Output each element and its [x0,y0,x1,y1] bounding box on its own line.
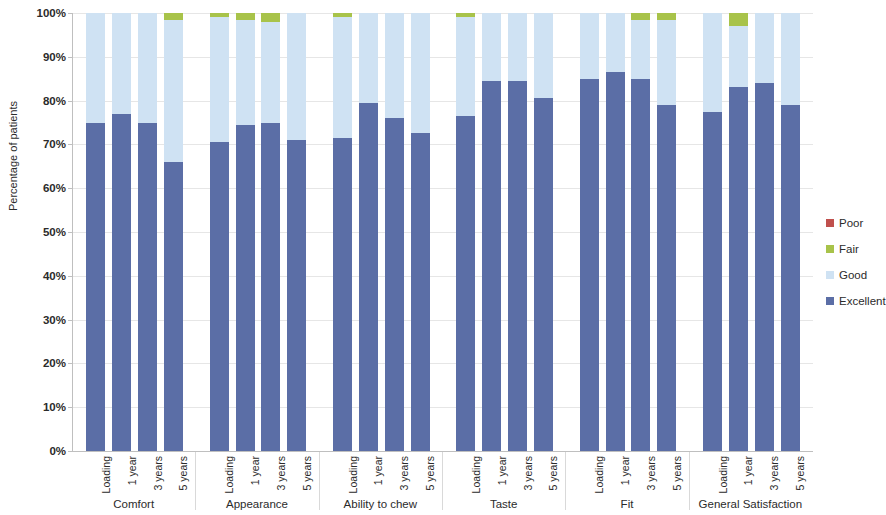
bar-slot [210,13,229,451]
y-axis-tick-mark [68,451,73,452]
legend-item[interactable]: Excellent [826,288,886,314]
y-axis-tick-label: 10% [43,401,66,413]
y-axis-tick-label: 50% [43,226,66,238]
legend-item[interactable]: Good [826,262,886,288]
x-axis-sub-label: Loading [470,456,482,493]
bar-slot [755,13,774,451]
bar-slot [703,13,722,451]
bar-segment-excellent [164,162,183,451]
x-axis-group-label: Fit [621,498,634,510]
bar-slot [287,13,306,451]
stacked-bar[interactable] [781,13,800,451]
x-axis-group-separator [565,452,566,510]
stacked-bar[interactable] [138,13,157,451]
stacked-bar[interactable] [657,13,676,451]
x-axis-sub-label: 3 years [522,456,534,490]
bar-slot [411,13,430,451]
legend-item[interactable]: Poor [826,210,886,236]
y-axis-tick-label: 100% [37,7,66,19]
stacked-bar[interactable] [164,13,183,451]
bar-segment-excellent [86,123,105,452]
bar-segment-excellent [287,140,306,451]
bar-slot [456,13,475,451]
stacked-bar[interactable] [580,13,599,451]
x-axis-sub-label: Loading [593,456,605,493]
bar-segment-good [138,13,157,123]
bar-segment-fair [261,13,280,22]
bar-segment-excellent [333,138,352,451]
bar-segment-good [631,20,650,79]
bar-segment-excellent [385,118,404,451]
bar-slot [606,13,625,451]
bar-segment-excellent [534,98,553,451]
x-axis-sub-label: 1 year [496,456,508,485]
x-axis-sub-label: 1 year [619,456,631,485]
stacked-bar[interactable] [755,13,774,451]
x-axis-group-separator [195,452,196,510]
bar-segment-good [703,13,722,112]
bar-slot [359,13,378,451]
stacked-bar[interactable] [385,13,404,451]
x-axis-sub-label: 1 year [126,456,138,485]
bar-segment-excellent [755,83,774,451]
x-axis-sub-label: 5 years [177,456,189,490]
stacked-bar[interactable] [456,13,475,451]
stacked-bar[interactable] [729,13,748,451]
legend-swatch-icon [826,297,834,305]
stacked-bar[interactable] [508,13,527,451]
legend-swatch-icon [826,271,834,279]
bar-slot [580,13,599,451]
bar-group [320,13,443,451]
bar-segment-good [261,22,280,123]
stacked-bar[interactable] [534,13,553,451]
legend-item[interactable]: Fair [826,236,886,262]
bar-segment-fair [729,13,748,26]
stacked-bar[interactable] [112,13,131,451]
bar-group [443,13,566,451]
bar-segment-good [508,13,527,81]
bar-segment-good [164,20,183,162]
stacked-bar[interactable] [333,13,352,451]
x-axis-sub-label: 5 years [301,456,313,490]
bar-segment-good [781,13,800,105]
y-axis-tick-label: 40% [43,270,66,282]
bar-segment-good [456,17,475,116]
bar-segment-excellent [631,79,650,451]
stacked-bar[interactable] [86,13,105,451]
plot-area: 0%10%20%30%40%50%60%70%80%90%100% [72,13,813,452]
x-axis-group-separator [442,452,443,510]
bar-slot [385,13,404,451]
legend-swatch-icon [826,219,834,227]
stacked-bar[interactable] [606,13,625,451]
stacked-bar[interactable] [287,13,306,451]
bar-group [196,13,319,451]
x-axis-group-label: Taste [490,498,518,510]
stacked-bar[interactable] [359,13,378,451]
y-axis-tick-label: 70% [43,138,66,150]
legend-label: Poor [839,217,863,229]
bar-segment-excellent [236,125,255,451]
x-axis-sub-label: 5 years [424,456,436,490]
y-axis-tick-label: 80% [43,95,66,107]
x-axis-sub-label: 5 years [794,456,806,490]
x-axis-sub-label: 5 years [547,456,559,490]
x-axis-sub-label: 3 years [645,456,657,490]
bar-segment-excellent [411,133,430,451]
stacked-bar[interactable] [631,13,650,451]
stacked-bar[interactable] [236,13,255,451]
bar-segment-good [580,13,599,79]
stacked-bar[interactable] [703,13,722,451]
x-axis-sub-label: Loading [717,456,729,493]
stacked-bar[interactable] [411,13,430,451]
bar-segment-excellent [456,116,475,451]
bar-segment-good [657,20,676,105]
stacked-bar[interactable] [261,13,280,451]
y-axis-tick-label: 60% [43,182,66,194]
x-axis-sub-label: Loading [347,456,359,493]
stacked-bar[interactable] [210,13,229,451]
bar-segment-good [86,13,105,123]
stacked-bar[interactable] [482,13,501,451]
x-axis-sub-label: 5 years [671,456,683,490]
x-axis-group-label: Ability to chew [344,498,418,510]
